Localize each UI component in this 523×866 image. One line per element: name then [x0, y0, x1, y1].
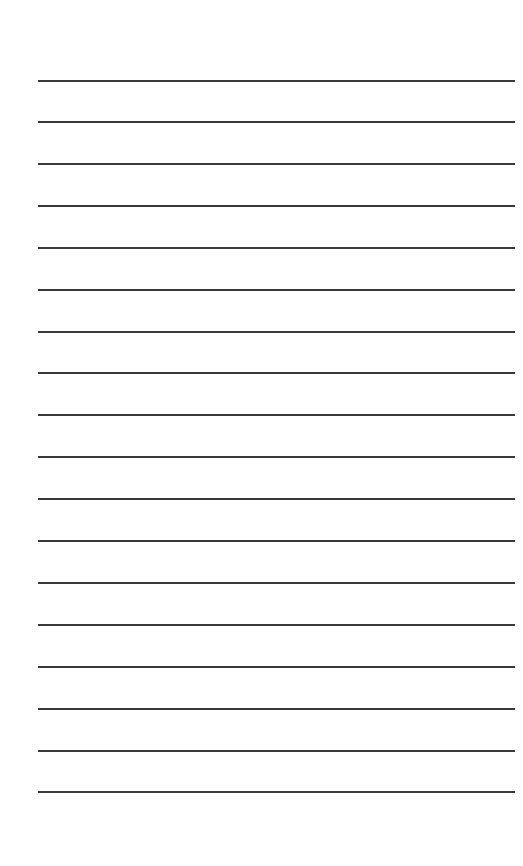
- ruled-line: [38, 163, 515, 165]
- ruled-line: [38, 414, 515, 416]
- ruled-line: [38, 247, 515, 249]
- ruled-line: [38, 456, 515, 458]
- ruled-line: [38, 372, 515, 374]
- ruled-line: [38, 80, 515, 82]
- ruled-line: [38, 791, 515, 793]
- lined-paper-page: [0, 0, 523, 866]
- ruled-line: [38, 540, 515, 542]
- ruled-line: [38, 121, 515, 123]
- ruled-line: [38, 582, 515, 584]
- ruled-line: [38, 708, 515, 710]
- ruled-line: [38, 289, 515, 291]
- ruled-line: [38, 205, 515, 207]
- ruled-line: [38, 498, 515, 500]
- ruled-line: [38, 750, 515, 752]
- ruled-line: [38, 666, 515, 668]
- ruled-line: [38, 624, 515, 626]
- ruled-line: [38, 331, 515, 333]
